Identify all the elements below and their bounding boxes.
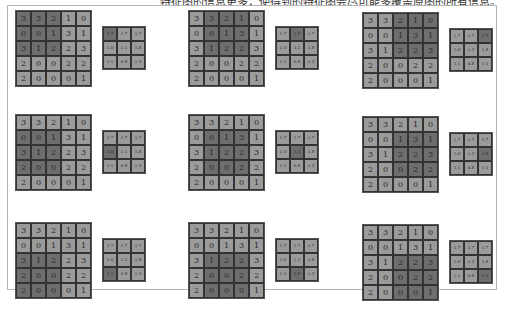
- input-cell: 0: [204, 268, 219, 283]
- output-cell: 1.3: [304, 267, 318, 281]
- output-cell: 1.7: [276, 131, 290, 145]
- input-cell: 1: [76, 71, 91, 86]
- output-cell: 1.7: [131, 131, 145, 145]
- input-cell: 0: [31, 130, 46, 145]
- output-cell: 1.7: [103, 239, 117, 253]
- input-feature-map: 3321000131312232002220001: [15, 10, 92, 87]
- input-cell: 1: [408, 225, 423, 240]
- input-cell: 3: [234, 130, 249, 145]
- output-cell: 1.1: [103, 267, 117, 281]
- input-cell: 2: [249, 56, 264, 71]
- input-cell: 0: [204, 160, 219, 175]
- output-feature-map: 1.71.71.71.01.21.81.10.81.3: [102, 238, 146, 282]
- input-cell: 0: [378, 270, 393, 285]
- input-cell: 3: [408, 240, 423, 255]
- input-cell: 0: [378, 162, 393, 177]
- input-cell: 2: [393, 147, 408, 162]
- input-cell: 0: [31, 26, 46, 41]
- input-cell: 1: [31, 253, 46, 268]
- input-cell: 0: [393, 58, 408, 73]
- output-cell: 1.8: [304, 253, 318, 267]
- input-cell: 0: [204, 175, 219, 190]
- input-cell: 3: [363, 43, 378, 58]
- input-cell: 1: [61, 223, 76, 238]
- output-cell: 1.2: [464, 147, 478, 161]
- output-cell: 1.7: [304, 131, 318, 145]
- input-cell: 0: [249, 115, 264, 130]
- input-cell: 0: [204, 283, 219, 298]
- output-cell: 1.7: [290, 239, 304, 253]
- input-cell: 3: [234, 26, 249, 41]
- input-cell: 2: [16, 175, 31, 190]
- input-cell: 3: [423, 147, 438, 162]
- input-cell: 3: [189, 145, 204, 160]
- input-cell: 1: [234, 11, 249, 26]
- output-cell: 1.0: [276, 145, 290, 159]
- output-cell: 0.8: [464, 161, 478, 175]
- input-cell: 3: [31, 223, 46, 238]
- output-cell: 1.0: [276, 41, 290, 55]
- output-cell: 1.7: [450, 241, 464, 255]
- input-cell: 3: [363, 225, 378, 240]
- input-feature-map: 3321000131312232002220001: [362, 224, 439, 301]
- input-cell: 1: [204, 253, 219, 268]
- input-cell: 3: [61, 238, 76, 253]
- input-cell: 0: [423, 117, 438, 132]
- input-cell: 3: [16, 115, 31, 130]
- input-cell: 3: [363, 147, 378, 162]
- input-cell: 1: [393, 132, 408, 147]
- input-cell: 1: [249, 71, 264, 86]
- output-cell: 1.1: [103, 55, 117, 69]
- input-cell: 0: [378, 58, 393, 73]
- input-cell: 3: [61, 130, 76, 145]
- output-cell: 1.7: [290, 27, 304, 41]
- output-cell: 1.3: [304, 159, 318, 173]
- input-cell: 1: [393, 240, 408, 255]
- input-cell: 0: [423, 225, 438, 240]
- input-cell: 0: [393, 73, 408, 88]
- input-cell: 0: [61, 175, 76, 190]
- input-feature-map: 3321000131312232002220001: [188, 114, 265, 191]
- input-cell: 0: [76, 223, 91, 238]
- input-cell: 2: [393, 225, 408, 240]
- output-cell: 1.8: [478, 255, 492, 269]
- input-cell: 1: [249, 283, 264, 298]
- input-cell: 2: [46, 11, 61, 26]
- output-cell: 1.2: [117, 145, 131, 159]
- output-cell: 1.0: [450, 255, 464, 269]
- input-cell: 3: [204, 11, 219, 26]
- input-cell: 0: [31, 268, 46, 283]
- input-cell: 2: [408, 147, 423, 162]
- output-cell: 1.3: [478, 161, 492, 175]
- input-cell: 0: [249, 11, 264, 26]
- input-cell: 2: [76, 268, 91, 283]
- output-feature-map: 1.71.71.71.01.21.81.10.81.3: [449, 132, 493, 176]
- input-cell: 2: [408, 270, 423, 285]
- input-cell: 2: [16, 71, 31, 86]
- input-cell: 0: [378, 240, 393, 255]
- input-cell: 2: [76, 56, 91, 71]
- input-cell: 3: [76, 145, 91, 160]
- output-cell: 1.7: [276, 239, 290, 253]
- output-cell: 1.1: [450, 161, 464, 175]
- input-cell: 2: [46, 145, 61, 160]
- input-cell: 2: [363, 73, 378, 88]
- input-cell: 1: [234, 115, 249, 130]
- input-cell: 2: [16, 268, 31, 283]
- input-cell: 1: [249, 238, 264, 253]
- input-cell: 1: [61, 115, 76, 130]
- input-cell: 0: [16, 130, 31, 145]
- input-cell: 2: [46, 41, 61, 56]
- input-cell: 3: [189, 115, 204, 130]
- input-cell: 0: [189, 238, 204, 253]
- input-cell: 1: [423, 285, 438, 300]
- output-cell: 1.7: [276, 27, 290, 41]
- input-cell: 1: [76, 26, 91, 41]
- input-cell: 1: [423, 132, 438, 147]
- output-feature-map: 1.71.71.71.01.21.81.10.81.3: [102, 26, 146, 70]
- input-cell: 0: [363, 28, 378, 43]
- input-cell: 2: [249, 160, 264, 175]
- output-cell: 1.7: [117, 239, 131, 253]
- input-cell: 0: [393, 177, 408, 192]
- input-cell: 3: [423, 255, 438, 270]
